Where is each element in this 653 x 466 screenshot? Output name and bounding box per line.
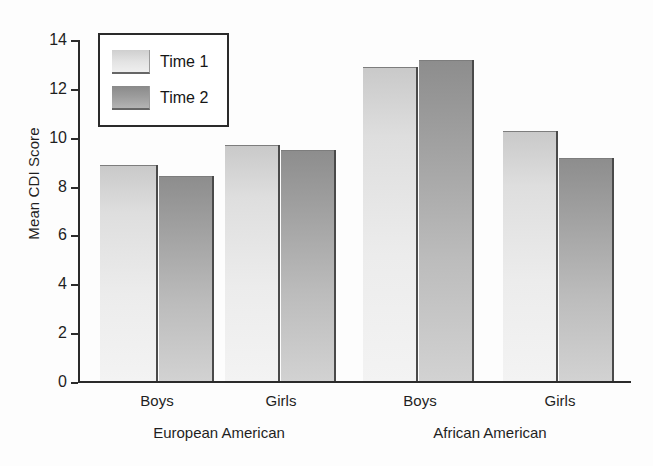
y-tick-mark xyxy=(71,89,78,91)
category-label-aa-boys: Boys xyxy=(403,392,436,409)
y-tick-label: 10 xyxy=(49,129,67,147)
legend-entry-time-1: Time 1 xyxy=(112,49,208,75)
y-tick-mark xyxy=(71,284,78,286)
y-tick-label: 4 xyxy=(58,275,67,293)
y-tick-label: 6 xyxy=(58,226,67,244)
chart-legend: Time 1 Time 2 xyxy=(98,33,229,127)
bar-ea-girls-time1 xyxy=(225,145,280,381)
bar-aa-girls-time1 xyxy=(503,131,558,381)
y-tick-mark xyxy=(71,235,78,237)
y-tick-label: 8 xyxy=(58,177,67,195)
y-tick-mark xyxy=(71,40,78,42)
legend-label-time-1: Time 1 xyxy=(160,53,208,71)
group-label-african-american: African American xyxy=(433,424,546,441)
bar-aa-boys-time2 xyxy=(419,60,474,382)
y-tick-label: 12 xyxy=(49,80,67,98)
y-tick-label: 0 xyxy=(58,373,67,391)
legend-label-time-2: Time 2 xyxy=(160,89,208,107)
bar-ea-girls-time2 xyxy=(281,150,336,381)
legend-swatch-time-1-icon xyxy=(112,50,150,74)
y-axis-line xyxy=(78,40,80,383)
bar-aa-girls-time2 xyxy=(559,158,614,381)
bar-ea-boys-time1 xyxy=(100,165,158,381)
category-label-ea-girls: Girls xyxy=(266,392,297,409)
y-axis-title: Mean CDI Score xyxy=(25,89,42,279)
y-tick-mark xyxy=(71,382,78,384)
y-tick-mark xyxy=(71,138,78,140)
legend-swatch-time-2-icon xyxy=(112,86,150,110)
bar-aa-boys-time1 xyxy=(363,67,418,381)
bar-ea-boys-time2 xyxy=(159,176,214,381)
bar-chart: Mean CDI Score 14 12 10 8 6 4 xyxy=(0,0,653,466)
legend-entry-time-2: Time 2 xyxy=(112,85,208,111)
y-tick-label: 14 xyxy=(49,31,67,49)
y-tick-mark xyxy=(71,333,78,335)
group-label-european-american: European American xyxy=(153,424,285,441)
category-label-aa-girls: Girls xyxy=(545,392,576,409)
y-tick-mark xyxy=(71,187,78,189)
y-tick-label: 2 xyxy=(58,324,67,342)
category-label-ea-boys: Boys xyxy=(140,392,173,409)
x-axis-line xyxy=(78,381,631,383)
